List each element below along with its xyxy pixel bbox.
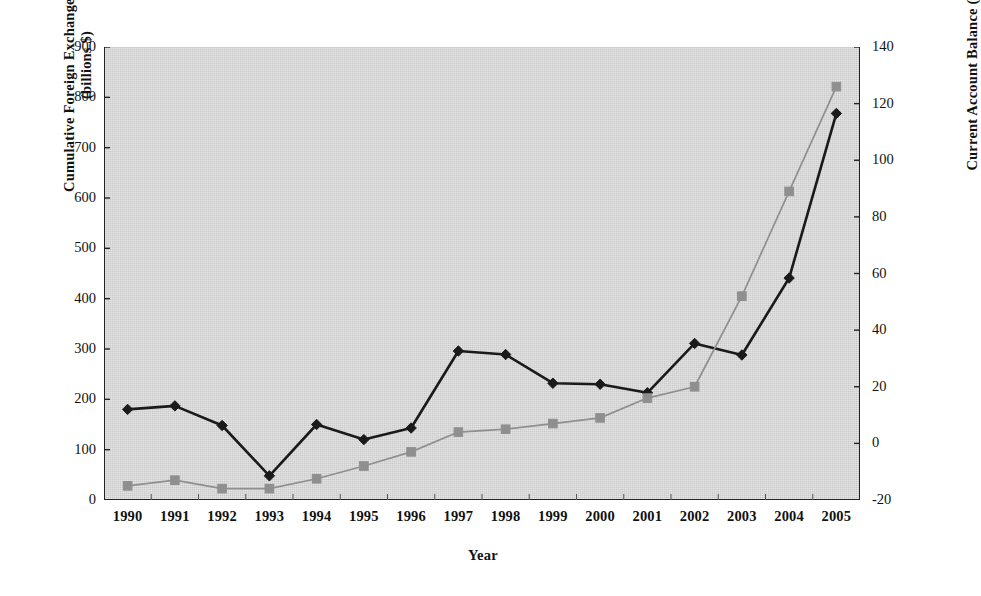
y-axis-right-tick-label: 140 <box>872 39 928 53</box>
x-axis-tick-label: 1993 <box>242 508 296 525</box>
y-axis-right-tick-label: 40 <box>872 322 928 336</box>
plot-area <box>104 47 860 500</box>
data-point-marker <box>690 382 699 391</box>
data-point-marker <box>407 448 416 457</box>
data-point-marker <box>595 379 605 389</box>
x-axis-tick-label: 2001 <box>620 508 674 525</box>
x-axis-tick-label: 1999 <box>526 508 580 525</box>
y-axis-left-tick-label: 0 <box>50 492 96 506</box>
y-axis-right-tick-label: 80 <box>872 209 928 223</box>
x-axis-tick-label: 1996 <box>384 508 438 525</box>
data-point-marker <box>265 484 274 493</box>
data-point-marker <box>643 394 652 403</box>
x-axis-tick-label: 2005 <box>809 508 863 525</box>
x-axis-tick-label: 1997 <box>431 508 485 525</box>
y-axis-left-tick-label: 200 <box>50 391 96 405</box>
y-axis-right-tick-label: 100 <box>872 152 928 166</box>
x-axis-tick-label: 1990 <box>101 508 155 525</box>
y-axis-left-tick-label: 700 <box>50 140 96 154</box>
data-point-marker <box>785 187 794 196</box>
y-axis-right-tick-label: 0 <box>872 435 928 449</box>
y-axis-left-tick-label: 500 <box>50 240 96 254</box>
y-axis-left-tick-label: 900 <box>50 39 96 53</box>
series-reserves <box>122 108 841 481</box>
x-axis-title: Year <box>0 547 966 564</box>
y-axis-left-tick-label: 400 <box>50 291 96 305</box>
data-point-marker <box>359 434 369 444</box>
data-point-marker <box>549 419 558 428</box>
plot-canvas <box>104 47 860 500</box>
data-point-marker <box>312 474 321 483</box>
data-point-marker <box>123 482 132 491</box>
y-axis-left-tick-label: 800 <box>50 89 96 103</box>
y-axis-left-tick-label: 100 <box>50 442 96 456</box>
y-axis-right-tick-label: -20 <box>872 492 928 506</box>
data-point-marker <box>171 476 180 485</box>
data-point-marker <box>501 425 510 434</box>
y-axis-left-tick-label: 300 <box>50 341 96 355</box>
data-point-marker <box>218 484 227 493</box>
data-point-marker <box>738 292 747 301</box>
x-axis-tick-label: 2003 <box>715 508 769 525</box>
y-axis-left-tick-label: 600 <box>50 190 96 204</box>
y-axis-right-title: Current Account Balance (billions $) <box>964 0 981 281</box>
y-axis-right-tick-label: 60 <box>872 266 928 280</box>
x-axis-tick-label: 2002 <box>668 508 722 525</box>
x-axis-tick-label: 2004 <box>762 508 816 525</box>
x-axis-tick-label: 1991 <box>148 508 202 525</box>
data-point-marker <box>454 428 463 437</box>
y-axis-right-tick-label: 120 <box>872 96 928 110</box>
data-point-marker <box>170 401 180 411</box>
x-axis-tick-label: 2000 <box>573 508 627 525</box>
x-axis-tick-label: 1992 <box>195 508 249 525</box>
y-axis-right-tick-label: 20 <box>872 379 928 393</box>
data-point-marker <box>122 404 132 414</box>
series-current-account <box>123 82 840 493</box>
x-axis-tick-label: 1995 <box>337 508 391 525</box>
x-axis-tick-label: 1994 <box>290 508 344 525</box>
data-point-marker <box>596 414 605 423</box>
x-axis-tick-label: 1998 <box>479 508 533 525</box>
data-point-marker <box>831 108 841 118</box>
data-point-marker <box>360 462 369 471</box>
data-point-marker <box>832 82 841 91</box>
